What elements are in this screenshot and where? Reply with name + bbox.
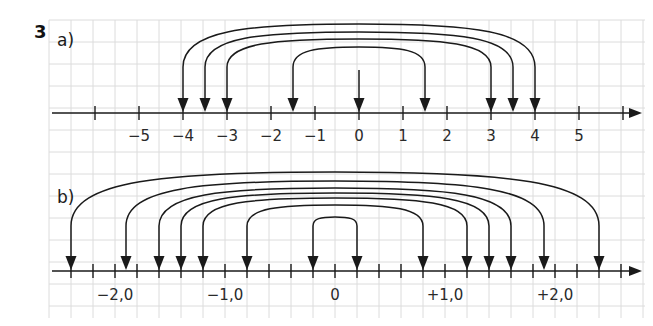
tick-label: +1,0 [427,286,463,304]
tick-label: −2 [260,127,282,145]
arrowhead-icon [420,98,431,112]
arrowhead-icon [66,256,77,270]
number-line-diagram: 3 a) b) −5−4−3−2−1012345 −2,0−1,00+1,0+2… [0,0,653,326]
arrowhead-icon [308,256,319,270]
tick-label: −4 [172,127,194,145]
exercise-number: 3 [34,21,47,42]
tick-label: 1 [398,127,408,145]
tick-label: −2,0 [97,286,133,304]
tick-label: −5 [128,127,150,145]
arrowhead-icon [200,98,211,112]
arrowhead-icon [121,256,132,270]
arrowhead-icon [176,256,187,270]
arrowhead-icon [418,256,429,270]
part-b-label: b) [57,187,74,207]
tick-label: −1 [304,127,326,145]
arrowhead-icon [506,256,517,270]
arrowhead-icon [242,256,253,270]
arrowhead-icon [530,98,541,112]
arrowhead-icon [154,256,165,270]
arrowhead-icon [539,256,550,270]
tick-label: 0 [330,286,340,304]
tick-label: +2,0 [537,286,573,304]
tick-label: 0 [354,127,364,145]
tick-label: 5 [574,127,584,145]
arrowhead-icon [288,98,299,112]
arrowhead-icon [198,256,209,270]
arrowhead-icon [352,256,363,270]
arrowhead-icon [354,98,365,112]
arrowhead-icon [508,98,519,112]
axis-arrow-icon [629,108,642,118]
arrowhead-icon [484,256,495,270]
arrowhead-icon [486,98,497,112]
part-a-label: a) [57,30,74,50]
tick-label: 2 [442,127,452,145]
axis-arrow-icon [629,266,642,276]
arrowhead-icon [462,256,473,270]
tick-label: −1,0 [207,286,243,304]
tick-label: 4 [530,127,540,145]
arrowhead-icon [178,98,189,112]
arrowhead-icon [222,98,233,112]
tick-label: −3 [216,127,238,145]
tick-label: 3 [486,127,496,145]
arrowhead-icon [594,256,605,270]
